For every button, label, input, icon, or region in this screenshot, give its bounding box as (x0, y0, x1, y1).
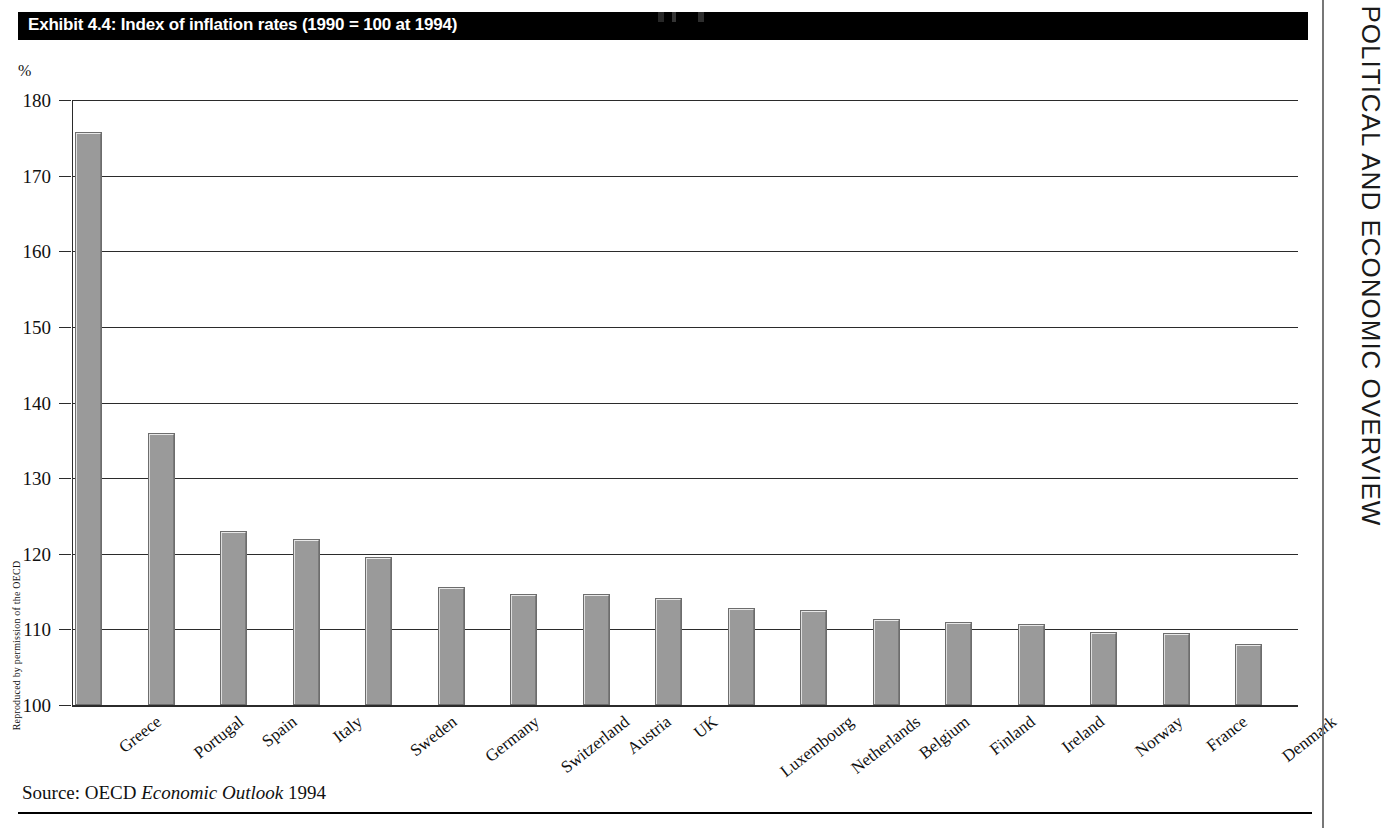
y-tick-160 (59, 251, 71, 252)
source-prefix: Source: OECD (22, 782, 137, 803)
gridline-110 (73, 629, 1298, 630)
bar-greece (75, 132, 102, 705)
gridline-160 (73, 251, 1298, 252)
permission-credit: Reproduced by permission of the OECD (11, 556, 22, 736)
x-axis-label: Luxembourg (776, 712, 857, 782)
bar-austria (583, 594, 610, 705)
bar-finland (945, 622, 972, 705)
running-head: POLITICAL AND ECONOMIC OVERVIEW (1355, 6, 1385, 426)
gridline-120 (73, 554, 1298, 555)
gridline-140 (73, 403, 1298, 404)
x-axis-label: Sweden (406, 712, 461, 761)
y-tick-120 (59, 554, 71, 555)
x-axis-label: Netherlands (847, 712, 924, 778)
y-tick-label: 180 (23, 91, 52, 110)
y-tick-180 (59, 100, 71, 101)
x-axis-label: Belgium (915, 712, 973, 764)
source-note: Source: OECD Economic Outlook 1994 (22, 782, 326, 804)
y-tick-110 (59, 629, 71, 630)
x-axis-label: Switzerland (557, 712, 633, 778)
bar-belgium (873, 619, 900, 705)
y-tick-130 (59, 478, 71, 479)
x-axis-label: Finland (986, 712, 1039, 760)
x-axis-baseline (73, 705, 1298, 707)
y-tick-label: 130 (23, 469, 52, 488)
title-artifact (658, 12, 718, 22)
bar-ireland (1018, 624, 1045, 705)
bar-norway (1090, 632, 1117, 705)
y-tick-100 (59, 705, 71, 706)
bar-germany (438, 587, 465, 705)
x-axis-label: Austria (623, 712, 675, 759)
x-axis-label: Germany (481, 712, 543, 767)
y-tick-label: 140 (23, 393, 52, 412)
y-tick-170 (59, 176, 71, 177)
bar-switzerland (510, 594, 537, 705)
y-tick-140 (59, 403, 71, 404)
source-publication: Economic Outlook (141, 782, 283, 803)
page-edge-rule (1322, 0, 1324, 828)
y-tick-label: 170 (23, 166, 52, 185)
bar-portugal (148, 433, 175, 705)
x-axis-label: Italy (329, 712, 366, 747)
bar-denmark (1235, 644, 1262, 705)
bar-spain (220, 531, 247, 705)
bar-netherlands (800, 610, 827, 705)
bar-uk (655, 598, 682, 705)
bar-sweden (365, 557, 392, 705)
y-tick-label: 120 (23, 544, 52, 563)
bar-france (1163, 633, 1190, 705)
x-axis-label: France (1202, 712, 1251, 756)
x-axis-label: Spain (258, 712, 301, 752)
x-axis-label: Portugal (190, 712, 248, 763)
x-axis-label: UK (690, 712, 722, 743)
y-tick-label: 110 (23, 620, 51, 639)
x-axis-label: Denmark (1278, 712, 1340, 767)
bar-italy (293, 539, 320, 705)
y-tick-label: 150 (23, 317, 52, 336)
chart-plot-area: 100110120130140150160170180GreecePortuga… (73, 100, 1298, 705)
bar-luxembourg (728, 608, 755, 705)
bottom-rule (18, 812, 1312, 814)
x-axis-label: Ireland (1058, 712, 1108, 757)
source-year: 1994 (288, 782, 326, 803)
gridline-130 (73, 478, 1298, 479)
y-tick-label: 160 (23, 242, 52, 261)
x-axis-label: Greece (115, 712, 165, 757)
y-axis-unit-label: % (18, 62, 31, 80)
gridline-150 (73, 327, 1298, 328)
page-title: Exhibit 4.4: Index of inflation rates (1… (28, 15, 457, 35)
gridline-170 (73, 176, 1298, 177)
exhibit-title-bar: Exhibit 4.4: Index of inflation rates (1… (18, 12, 1308, 40)
gridline-180 (73, 100, 1298, 101)
y-tick-label: 100 (23, 696, 52, 715)
y-tick-150 (59, 327, 71, 328)
x-axis-label: Norway (1132, 712, 1187, 761)
y-axis-line (72, 100, 73, 707)
